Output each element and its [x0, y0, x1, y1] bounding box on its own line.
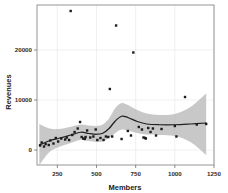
- y-axis-tick-labels: 01000020000: [15, 46, 33, 153]
- data-point: [52, 142, 54, 144]
- data-point: [77, 127, 79, 129]
- data-point: [132, 51, 134, 53]
- data-point: [69, 10, 71, 12]
- data-point: [127, 130, 129, 132]
- data-point: [95, 128, 97, 130]
- x-axis-title: Members: [109, 183, 142, 192]
- y-tick-label: 10000: [15, 96, 33, 103]
- data-point: [102, 139, 104, 141]
- data-point: [130, 134, 132, 136]
- chart-canvas: 25050075010001250 01000020000 Members Re…: [0, 0, 228, 193]
- y-tick-label: 0: [29, 146, 33, 153]
- data-point: [155, 134, 157, 136]
- y-tick-label: 20000: [15, 46, 33, 53]
- data-point: [115, 24, 117, 26]
- data-point: [184, 96, 186, 98]
- data-point: [89, 136, 91, 138]
- data-point: [79, 121, 81, 123]
- y-axis-title: Revenues: [4, 74, 13, 109]
- data-point: [160, 128, 162, 130]
- x-tick-label: 750: [131, 170, 142, 177]
- data-point: [68, 139, 70, 141]
- x-tick-label: 1250: [207, 170, 221, 177]
- data-point: [84, 136, 86, 138]
- data-point: [48, 144, 50, 146]
- data-point: [96, 139, 98, 141]
- x-tick-label: 1000: [168, 170, 182, 177]
- x-axis-tick-labels: 25050075010001250: [52, 170, 221, 177]
- data-point: [73, 131, 75, 133]
- data-point: [147, 127, 149, 129]
- data-point: [105, 135, 107, 137]
- data-point: [99, 137, 101, 139]
- x-tick-label: 500: [91, 170, 102, 177]
- data-point: [152, 127, 154, 129]
- data-point: [175, 135, 177, 137]
- revenues-vs-members-scatter-chart: 25050075010001250 01000020000 Members Re…: [0, 0, 228, 193]
- data-point: [111, 135, 113, 137]
- data-point: [86, 129, 88, 131]
- data-point: [43, 145, 45, 147]
- data-point: [149, 131, 151, 133]
- data-point: [145, 137, 147, 139]
- data-point: [107, 136, 109, 138]
- data-point: [57, 140, 59, 142]
- data-point: [138, 126, 140, 128]
- data-point: [92, 135, 94, 137]
- x-tick-label: 250: [52, 170, 63, 177]
- data-point: [109, 88, 111, 90]
- data-point: [120, 138, 122, 140]
- data-point: [141, 128, 143, 130]
